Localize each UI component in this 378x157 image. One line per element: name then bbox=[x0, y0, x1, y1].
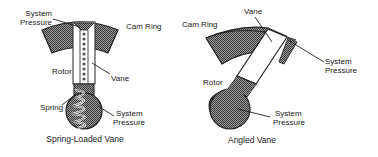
label-system-pressure-top-2: Pressure bbox=[20, 18, 53, 27]
label-system-pressure-bottom-2: Pressure bbox=[113, 118, 146, 127]
label-rotor: Rotor bbox=[52, 67, 72, 76]
label-system-pressure-top: System bbox=[25, 9, 52, 18]
label-spring: Spring bbox=[40, 103, 63, 112]
label-vane: Vane bbox=[111, 74, 130, 83]
label-system-pressure-top: System bbox=[325, 57, 352, 66]
label-system-pressure-bottom: System bbox=[116, 109, 143, 118]
label-system-pressure-bottom: System bbox=[275, 109, 302, 118]
angled-vane-figure: Vane Cam Ring System Pressure Rotor Syst… bbox=[182, 7, 358, 145]
label-cam-ring: Cam Ring bbox=[182, 20, 218, 29]
label-cam-ring: Cam Ring bbox=[126, 22, 162, 31]
spring-loaded-vane-figure: System Pressure Cam Ring Rotor Vane Spri… bbox=[20, 9, 162, 144]
label-rotor: Rotor bbox=[203, 78, 223, 87]
vane-pump-diagram: System Pressure Cam Ring Rotor Vane Spri… bbox=[0, 0, 378, 157]
label-system-pressure-top-2: Pressure bbox=[325, 66, 358, 75]
caption-spring-loaded-vane: Spring-Loaded Vane bbox=[46, 134, 124, 144]
caption-angled-vane: Angled Vane bbox=[228, 135, 276, 145]
label-system-pressure-bottom-2: Pressure bbox=[273, 118, 306, 127]
label-vane: Vane bbox=[244, 7, 263, 16]
